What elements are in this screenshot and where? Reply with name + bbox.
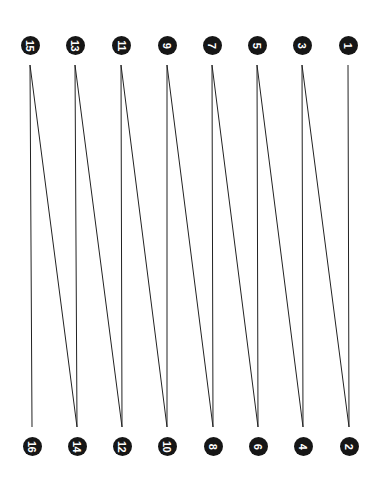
node-label: 16 xyxy=(27,440,38,451)
node-label: 9 xyxy=(162,42,173,48)
node-3: 3 xyxy=(293,36,312,55)
node-label: 13 xyxy=(70,39,81,50)
node-7: 7 xyxy=(203,36,222,55)
node-5: 5 xyxy=(248,36,267,55)
node-label: 4 xyxy=(298,443,309,449)
node-label: 5 xyxy=(252,42,263,48)
node-label: 3 xyxy=(297,42,308,48)
node-label: 10 xyxy=(162,440,173,451)
node-6: 6 xyxy=(249,437,268,456)
node-label: 1 xyxy=(343,42,354,48)
connector-11-12 xyxy=(121,65,122,427)
connector-3-4 xyxy=(302,65,303,427)
connector-6-7 xyxy=(212,65,258,427)
node-label: 12 xyxy=(117,440,128,451)
connector-8-9 xyxy=(167,65,213,427)
node-15: 15 xyxy=(21,36,40,55)
connector-7-8 xyxy=(212,65,213,427)
node-label: 11 xyxy=(115,40,126,51)
node-11: 11 xyxy=(112,36,131,55)
connector-10-11 xyxy=(121,65,167,427)
node-4: 4 xyxy=(294,437,313,456)
node-9: 9 xyxy=(158,36,177,55)
connector-2-3 xyxy=(302,65,349,427)
node-label: 8 xyxy=(208,443,219,449)
node-1: 1 xyxy=(339,36,358,55)
connector-4-5 xyxy=(257,65,303,427)
node-label: 14 xyxy=(72,440,83,451)
node-13: 13 xyxy=(66,36,85,55)
connector-5-6 xyxy=(257,65,258,427)
node-label: 15 xyxy=(25,39,36,50)
zigzag-diagram: 12345678910111213141516 xyxy=(0,0,378,478)
node-2: 2 xyxy=(340,437,359,456)
node-8: 8 xyxy=(204,437,223,456)
node-label: 6 xyxy=(253,443,264,449)
node-14: 14 xyxy=(68,437,87,456)
node-16: 16 xyxy=(23,437,42,456)
connector-15-16 xyxy=(30,65,32,427)
node-label: 7 xyxy=(207,42,218,48)
connector-lines xyxy=(0,0,378,478)
node-10: 10 xyxy=(158,437,177,456)
node-label: 2 xyxy=(344,443,355,449)
connector-12-13 xyxy=(75,65,122,427)
node-12: 12 xyxy=(113,437,132,456)
connector-14-15 xyxy=(30,65,77,427)
connector-1-2 xyxy=(348,65,349,427)
connector-13-14 xyxy=(75,65,77,427)
